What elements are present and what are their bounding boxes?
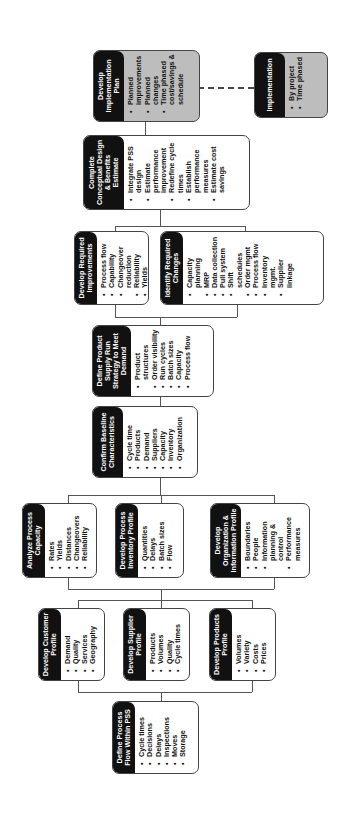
box-frame: Develop Organization & Information Profi…: [210, 503, 310, 578]
connector: [160, 478, 161, 495]
box-title: Develop Products Profile: [210, 609, 232, 680]
box-items: Cycle timesDecisionsDelaysInspectionsMov…: [135, 702, 190, 773]
connector: [115, 226, 245, 227]
bullet-item: Time phased: [296, 56, 304, 109]
box-develop-required-improvements: Develop Required ImprovementsProcess flo…: [74, 233, 147, 305]
box-frame: Develop Implementation PlanPlanned impro…: [93, 50, 200, 122]
box-title: Develop Implementation Plan: [94, 51, 124, 121]
box-items: Integrate PSS designEstimate performance…: [124, 136, 229, 209]
box-develop-customer-profile: Develop Customer ProfileDemandQualitySer…: [38, 610, 103, 681]
box-frame: Develop Process Inventory ProfileQuantit…: [115, 503, 184, 578]
box-frame: ImplementationBy projectTime phased: [254, 52, 328, 118]
bullet-item: Capacity planning: [186, 235, 203, 296]
connector: [237, 305, 238, 317]
box-items: Planned improvementsPlanned changesTime …: [124, 51, 187, 121]
box-title: Develop Process Inventory Profile: [116, 504, 138, 577]
box-items: By projectTime phased: [285, 53, 307, 117]
connector: [68, 589, 274, 590]
box-title: Define Process Flow Within PSS: [113, 702, 135, 773]
box-items: VolumesVarietyCostsPrices: [232, 609, 270, 680]
connector: [252, 681, 253, 692]
bullet-item: Geography: [89, 612, 97, 672]
bullet-item: Reliability: [81, 507, 89, 569]
box-frame: Analyze Process CapacityRatesYieldsDista…: [22, 503, 97, 578]
bullet-item: Establish performance measures: [185, 139, 210, 201]
bullet-item: Prices: [260, 612, 268, 672]
connector: [161, 589, 162, 600]
bullet-item: Planned changes: [144, 54, 161, 113]
bullet-item: Integrate PSS design: [127, 139, 144, 201]
box-title: Develop Supplier Profile: [124, 609, 146, 680]
box-title: Confirm Baseline Characteristics: [93, 407, 123, 477]
connector: [274, 578, 275, 589]
bullet-item: Redefine cycle times: [168, 139, 185, 201]
box-develop-products-profile: Develop Products ProfileVolumesVarietyCo…: [209, 610, 274, 681]
box-define-product-supply-run: Define Product Supply Run Strategy to Me…: [92, 327, 212, 397]
bullet-item: Inventory mgmt.: [261, 235, 278, 296]
box-items: DemandQualityServicesGeography: [61, 609, 99, 680]
bullet-item: Changeover reduction: [117, 235, 134, 296]
connector: [78, 681, 79, 692]
box-develop-organization-info: Develop Organization & Information Profi…: [210, 505, 308, 578]
box-items: Capacity planningMRPData collectionPull …: [183, 232, 296, 304]
box-title: Complete Conceptual Design & Benefits Es…: [84, 136, 124, 209]
box-frame: Develop Required ImprovementsProcess flo…: [74, 231, 149, 305]
box-define-process-flow: Define Process Flow Within PSSCycle time…: [112, 703, 197, 774]
box-items: ProductsVolumesQualityCycle times: [146, 609, 184, 680]
bullet-item: Organization: [176, 410, 184, 469]
box-identify-required-changes: Identify Required ChangesCapacity planni…: [160, 233, 322, 305]
bullet-item: Storage: [179, 705, 187, 765]
box-items: Product structuresOrder visibilityRun cy…: [131, 326, 194, 396]
box-frame: Confirm Baseline CharacteristicsCycle ti…: [92, 406, 198, 478]
bullet-item: Product structures: [134, 329, 151, 388]
box-develop-supplier-profile: Develop Supplier ProfileProductsVolumesQ…: [123, 610, 188, 681]
bullet-item: Shift schedules: [227, 235, 244, 296]
connector: [78, 692, 252, 693]
box-analyze-process-capacity: Analyze Process CapacityRatesYieldsDista…: [22, 505, 95, 578]
box-title: Define Product Supply Run Strategy to Me…: [93, 326, 131, 396]
box-frame: Develop Supplier ProfileProductsVolumesQ…: [123, 608, 190, 681]
box-items: Process flowCapabilityChangeover reducti…: [97, 232, 149, 304]
box-frame: Complete Conceptual Design & Benefits Es…: [83, 135, 250, 210]
connector: [78, 600, 252, 601]
bullet-item: Planned improvements: [127, 54, 144, 113]
box-title: Implementation: [255, 53, 285, 117]
box-frame: Define Product Supply Run Strategy to Me…: [92, 325, 214, 397]
box-items: Cycle timeProductsDemandSuppliersCapacit…: [123, 407, 186, 477]
box-title: Identify Required Changes: [161, 232, 183, 304]
connector: [115, 305, 116, 317]
box-develop-implementation-plan: Develop Implementation PlanPlanned impro…: [93, 52, 198, 122]
bullet-item: Process flow: [184, 329, 192, 388]
box-frame: Identify Required ChangesCapacity planni…: [160, 231, 324, 305]
bullet-item: Flow: [166, 507, 174, 569]
box-title: Develop Organization & Information Profi…: [211, 504, 241, 577]
box-title: Develop Customer Profile: [39, 609, 61, 680]
box-frame: Develop Products ProfileVolumesVarietyCo…: [209, 608, 276, 681]
box-items: RatesYieldsDistancesChangeoversReliabili…: [45, 504, 91, 577]
bullet-item: Estimate cost savings: [210, 139, 227, 201]
bullet-item: Cycle times: [174, 612, 182, 672]
bullet-item: Estimate performance improvement: [144, 139, 169, 201]
box-complete-conceptual-design: Complete Conceptual Design & Benefits Es…: [83, 137, 248, 210]
box-implementation: ImplementationBy projectTime phased: [254, 54, 326, 118]
bullet-item: Performance measures: [285, 507, 302, 569]
bullet-item: Supplier linkage: [277, 235, 294, 296]
box-title: Develop Required Improvements: [75, 232, 97, 304]
connector: [160, 210, 161, 226]
connector: [115, 317, 237, 318]
box-title: Analyze Process Capacity: [23, 504, 45, 577]
box-confirm-baseline: Confirm Baseline CharacteristicsCycle ti…: [92, 408, 196, 478]
connector: [68, 495, 274, 496]
box-items: QuantitiesDelaysBatch sizesFlow: [138, 504, 176, 577]
connector: [68, 578, 69, 589]
bullet-item: Yields: [141, 235, 149, 296]
box-frame: Define Process Flow Within PSSCycle time…: [112, 701, 199, 774]
box-develop-process-inventory: Develop Process Inventory ProfileQuantit…: [115, 505, 182, 578]
bullet-item: Time phased cost/savings & schedule: [160, 54, 185, 113]
box-frame: Develop Customer ProfileDemandQualitySer…: [38, 608, 105, 681]
bullet-item: Information planning & control: [261, 507, 286, 569]
dashed-connector: [198, 87, 254, 89]
box-items: BoundariesPeopleInformation planning & c…: [241, 504, 304, 577]
